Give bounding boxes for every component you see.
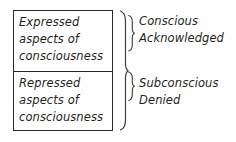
top-curly-brace-icon (129, 16, 135, 52)
label-line: Subconscious (139, 75, 219, 92)
cell-line: aspects of (19, 31, 110, 48)
label-subconscious: Subconscious Denied (139, 75, 219, 109)
label-line: Acknowledged (139, 30, 224, 47)
box-cell-repressed: Repressed aspects of consciousness (14, 72, 112, 132)
label-conscious: Conscious Acknowledged (139, 13, 224, 47)
label-line: Denied (139, 92, 219, 109)
box-cell-expressed: Expressed aspects of consciousness (14, 11, 112, 72)
label-line: Conscious (139, 13, 224, 30)
bottom-curly-brace-icon (129, 72, 135, 101)
cell-line: Repressed (19, 75, 110, 92)
outer-curly-brace-icon (121, 11, 129, 130)
cell-line: consciousness (19, 48, 110, 65)
cell-text-expressed: Expressed aspects of consciousness (19, 14, 110, 65)
consciousness-diagram: Expressed aspects of consciousness Repre… (0, 0, 236, 142)
cell-line: consciousness (19, 109, 110, 126)
cell-text-repressed: Repressed aspects of consciousness (19, 75, 110, 126)
consciousness-box: Expressed aspects of consciousness Repre… (13, 10, 113, 131)
cell-line: Expressed (19, 14, 110, 31)
cell-line: aspects of (19, 92, 110, 109)
